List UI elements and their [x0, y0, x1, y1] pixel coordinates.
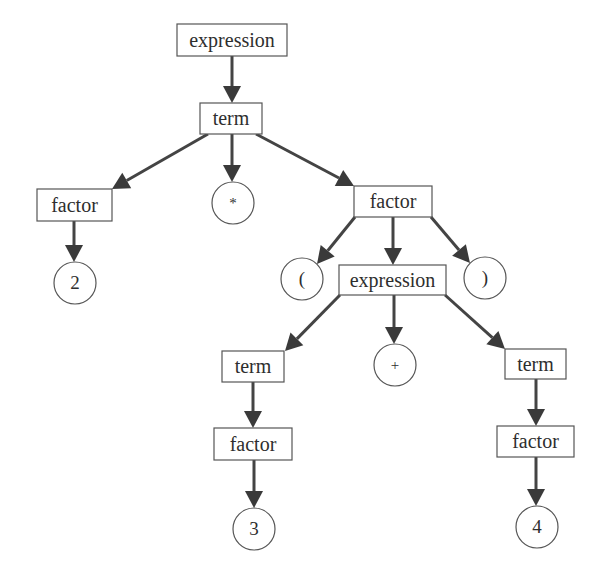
- edge-line: [445, 295, 492, 338]
- nonterminal-node-term: term: [222, 351, 284, 382]
- edge-line: [256, 134, 339, 178]
- terminal-node-star: *: [212, 182, 254, 224]
- terminal-node-3: 3: [233, 508, 275, 550]
- terminal-node-plus: +: [374, 344, 416, 386]
- terminal-node-rparen: ): [464, 257, 506, 299]
- node-label: term: [213, 107, 250, 129]
- edge-line: [431, 217, 459, 250]
- edge-expression-to-term: [445, 295, 505, 349]
- terminal-node-2: 2: [54, 262, 96, 304]
- node-label: 4: [532, 516, 542, 537]
- edge-factor-to-2: [65, 221, 83, 262]
- node-label: expression: [189, 29, 275, 52]
- node-label: ): [482, 267, 488, 289]
- arrowhead-icon: [385, 327, 403, 344]
- node-label: *: [229, 195, 237, 211]
- edge-expression-to-term: [285, 295, 340, 351]
- terminal-node-lparen: (: [281, 258, 323, 300]
- arrowhead-icon: [223, 165, 241, 182]
- nonterminal-node-expression: expression: [177, 24, 287, 56]
- edge-expression-to-term: [223, 56, 241, 103]
- node-label: factor: [512, 430, 559, 452]
- edge-factor-to-4: [527, 457, 545, 506]
- arrowhead-icon: [244, 411, 262, 428]
- node-label: factor: [230, 433, 277, 455]
- parse-tree-diagram: expressiontermfactor*factor2(expression)…: [0, 0, 606, 580]
- edge-term-to-factor: [244, 382, 262, 428]
- terminal-node-4: 4: [516, 506, 558, 548]
- edge-term-to-factor: [256, 134, 354, 186]
- edge-line: [297, 295, 340, 339]
- arrowhead-icon: [527, 409, 545, 426]
- nonterminal-node-term: term: [200, 103, 262, 134]
- nonterminal-node-factor: factor: [214, 428, 292, 460]
- node-label: factor: [51, 194, 98, 216]
- arrowhead-icon: [317, 245, 335, 264]
- edge-line: [328, 217, 355, 251]
- edge-factor-to-rparen: [431, 217, 470, 263]
- edge-factor-to-3: [245, 460, 263, 508]
- node-label: factor: [370, 190, 417, 212]
- arrowhead-icon: [223, 86, 241, 103]
- nonterminal-node-factor: factor: [37, 189, 112, 221]
- edge-line: [127, 134, 208, 181]
- nonterminal-node-factor: factor: [354, 186, 432, 217]
- arrowhead-icon: [65, 245, 83, 262]
- nonterminal-node-factor: factor: [497, 426, 574, 457]
- edge-expression-to-plus: [385, 295, 403, 344]
- node-label: (: [299, 268, 305, 290]
- edge-term-to-factor: [527, 379, 545, 426]
- edge-factor-to-expression: [384, 217, 402, 265]
- node-label: 2: [70, 272, 80, 293]
- node-label: +: [391, 357, 399, 373]
- nonterminal-node-expression: expression: [339, 265, 446, 295]
- node-label: term: [235, 355, 272, 377]
- arrowhead-icon: [527, 489, 545, 506]
- node-label: 3: [249, 518, 259, 539]
- edge-factor-to-lparen: [317, 217, 355, 264]
- node-label: term: [517, 353, 554, 375]
- edge-term-to-factor: [112, 134, 208, 189]
- nonterminal-node-term: term: [505, 349, 566, 379]
- arrowhead-icon: [245, 491, 263, 508]
- nodes: expressiontermfactor*factor2(expression)…: [37, 24, 574, 550]
- edge-term-to-star: [223, 134, 241, 182]
- arrowhead-icon: [384, 248, 402, 265]
- node-label: expression: [350, 269, 436, 292]
